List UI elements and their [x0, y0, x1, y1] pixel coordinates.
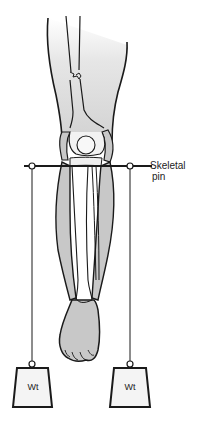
skeletal-traction-illustration	[0, 0, 198, 421]
skeletal-pin-label-line2: pin	[152, 171, 165, 182]
skeletal-pin-label-line1: Skeletal	[150, 160, 186, 171]
skeletal-pin-assembly	[13, 163, 152, 407]
weight-right-label: Wt	[115, 382, 145, 392]
knee	[60, 130, 113, 166]
pin-ring-left	[29, 163, 35, 169]
foot	[59, 298, 99, 361]
lower-leg	[56, 162, 114, 300]
patella	[77, 136, 95, 154]
thigh	[47, 18, 127, 142]
weight-ring-left	[29, 361, 35, 367]
weight-ring-right	[127, 361, 133, 367]
pin-ring-right	[127, 163, 133, 169]
weight-left-label: Wt	[18, 382, 48, 392]
